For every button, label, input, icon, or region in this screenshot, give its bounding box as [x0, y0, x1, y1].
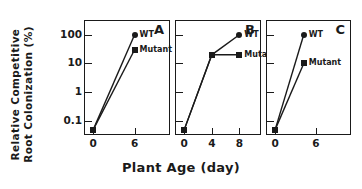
data-point-mutant: [301, 60, 307, 66]
data-point-wt: [301, 32, 307, 38]
x-tick-label-0: 0: [272, 138, 279, 149]
panel-letter-a: A: [154, 23, 164, 36]
x-axis-title: Plant Age (day): [0, 160, 362, 175]
x-tick-label-0: 0: [181, 138, 188, 149]
x-tick-label-4: 4: [208, 138, 215, 149]
series-line-wt: [184, 35, 239, 130]
series-line-wt: [275, 35, 304, 130]
chart-panel-a: WTMutant A 06: [84, 20, 170, 135]
data-point-mutant: [272, 127, 278, 133]
data-point-mutant: [132, 47, 138, 53]
panel-letter-b: B: [245, 23, 255, 36]
y-tick-label-1: 1: [75, 86, 82, 96]
data-point-mutant: [236, 52, 242, 58]
y-tick-label-100: 100: [60, 29, 82, 39]
y-tick-label-0.1: 0.1: [63, 115, 82, 125]
data-point-mutant: [181, 127, 187, 133]
figure-container: Relative Competitive Root Colonization (…: [0, 0, 362, 189]
x-tick-label-0: 0: [90, 138, 97, 149]
series-label-wt: WT: [309, 31, 323, 39]
data-point-wt: [132, 32, 138, 38]
data-point-mutant: [209, 52, 215, 58]
chart-panel-b: WTMutant B 048: [175, 20, 261, 135]
series-line-wt: [93, 35, 134, 130]
series-line-mutant: [93, 50, 134, 130]
y-tick-label-10: 10: [67, 57, 82, 67]
plot-area-b: WTMutant: [176, 21, 260, 134]
data-point-wt: [236, 32, 242, 38]
plot-area-c: WTMutant: [267, 21, 350, 134]
y-axis-tick-labels: 1001010.1: [42, 20, 82, 135]
data-point-mutant: [90, 127, 96, 133]
series-label-mutant: Mutant: [309, 59, 341, 67]
x-tick-label-6: 6: [312, 138, 319, 149]
series-label-wt: WT: [140, 31, 154, 39]
plot-area-a: WTMutant: [85, 21, 169, 134]
x-tick-label-6: 6: [131, 138, 138, 149]
x-tick-label-8: 8: [236, 138, 243, 149]
panel-letter-c: C: [335, 23, 345, 36]
series-line-mutant: [184, 55, 239, 130]
series-line-mutant: [275, 63, 304, 129]
chart-panel-c: WTMutant C 06: [266, 20, 351, 135]
y-axis-title-line-1: Relative Competitive: [9, 26, 22, 163]
series-lines-a: [85, 21, 169, 134]
y-axis-title-line-2: Root Colonization (%): [22, 26, 35, 163]
series-label-mutant: Mutant: [140, 46, 172, 54]
